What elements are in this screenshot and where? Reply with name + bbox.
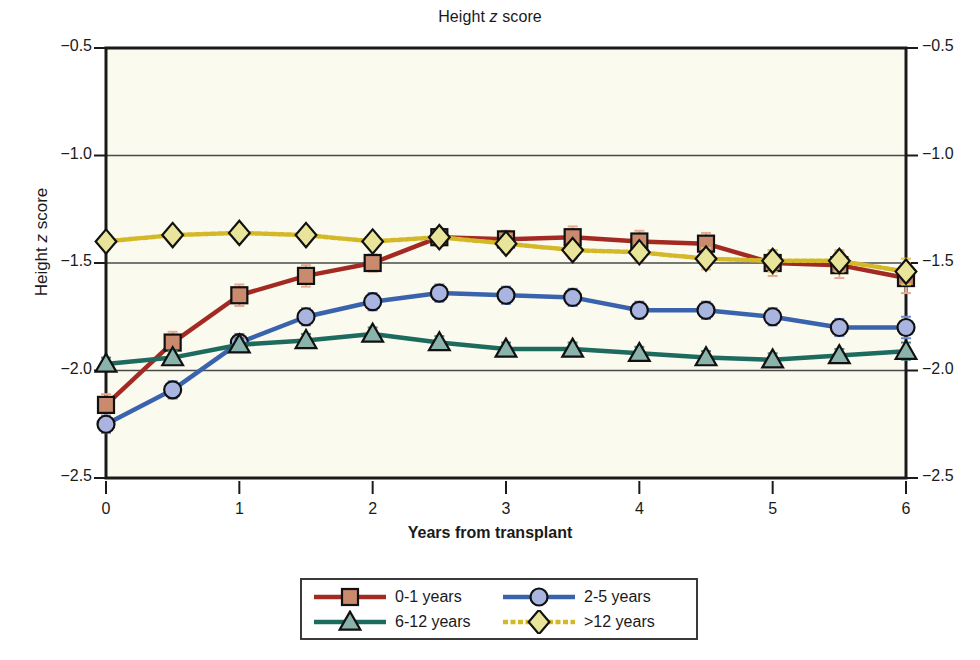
y-axis-tick-label-left-1: −1.0 [28, 145, 92, 163]
data-point-marker [298, 268, 314, 284]
y-axis-tick-label-left-4: −2.5 [28, 467, 92, 485]
plot-canvas [0, 0, 980, 660]
x-axis-tick-label-4: 4 [619, 500, 659, 518]
legend-swatch [501, 610, 577, 634]
chart-figure: Height z score Height z score Years from… [0, 0, 980, 660]
x-axis-tick-label-0: 0 [86, 500, 126, 518]
y-axis-tick-label-right-2: −1.5 [922, 252, 980, 270]
y-axis-tick-label-right-4: −2.5 [922, 467, 980, 485]
data-point-marker [98, 397, 114, 413]
legend-item-2-5-years[interactable]: 2-5 years [501, 585, 690, 609]
legend-label: 2-5 years [584, 588, 651, 606]
x-axis-tick-label-3: 3 [486, 500, 526, 518]
data-point-marker [231, 287, 247, 303]
data-point-marker [365, 255, 381, 271]
chart-legend: 0-1 years2-5 years6-12 years>12 years [300, 578, 698, 640]
legend-swatch [312, 585, 388, 609]
legend-marker-circle [531, 588, 548, 605]
y-axis-tick-label-right-0: −0.5 [922, 37, 980, 55]
data-point-marker [764, 308, 781, 325]
data-point-marker [164, 381, 181, 398]
data-point-marker [431, 285, 448, 302]
legend-label: 0-1 years [395, 588, 462, 606]
legend-label: 6-12 years [395, 613, 471, 631]
legend-swatch [312, 610, 388, 634]
data-point-marker [698, 302, 715, 319]
x-axis-tick-label-1: 1 [219, 500, 259, 518]
legend-item-6-12-years[interactable]: 6-12 years [312, 610, 501, 634]
x-axis-tick-label-6: 6 [886, 500, 926, 518]
legend-marker-diamond [529, 610, 550, 634]
data-point-marker [631, 302, 648, 319]
legend-item-0-1-years[interactable]: 0-1 years [312, 585, 501, 609]
y-axis-tick-label-right-3: −2.0 [922, 360, 980, 378]
x-axis-tick-label-2: 2 [353, 500, 393, 518]
data-point-marker [298, 308, 315, 325]
data-point-marker [498, 287, 515, 304]
data-point-marker [98, 416, 115, 433]
y-axis-tick-label-left-0: −0.5 [28, 37, 92, 55]
data-point-marker [831, 319, 848, 336]
x-axis-tick-label-5: 5 [753, 500, 793, 518]
data-point-marker [898, 319, 915, 336]
legend-item--12-years[interactable]: >12 years [501, 610, 690, 634]
legend-swatch [501, 585, 577, 609]
y-axis-tick-label-left-2: −1.5 [28, 252, 92, 270]
data-point-marker [564, 289, 581, 306]
y-axis-tick-label-right-1: −1.0 [922, 145, 980, 163]
y-axis-tick-label-left-3: −2.0 [28, 360, 92, 378]
legend-marker-square [342, 589, 358, 605]
data-point-marker [364, 293, 381, 310]
legend-label: >12 years [584, 613, 655, 631]
